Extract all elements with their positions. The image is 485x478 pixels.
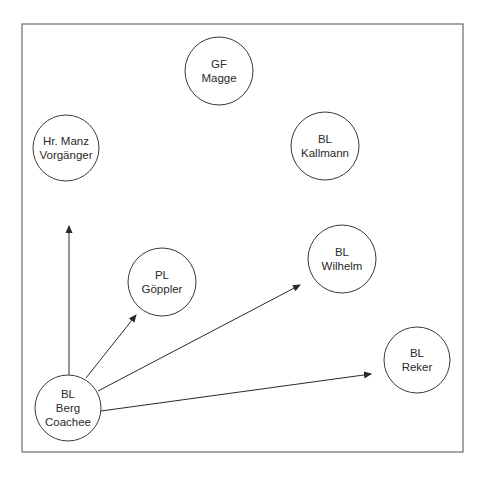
node-circle	[384, 327, 450, 393]
node-bl-kallmann: BLKallmann	[291, 112, 359, 180]
node-label-line: BL	[61, 388, 76, 400]
node-label-line: BL	[318, 133, 333, 145]
node-bl-berg: BLBergCoachee	[35, 375, 101, 441]
node-circle	[308, 225, 376, 293]
node-label-line: PL	[155, 269, 170, 281]
node-label-line: Coachee	[45, 416, 91, 428]
node-bl-wilhelm: BLWilhelm	[308, 225, 376, 293]
node-circle	[185, 37, 253, 105]
node-label-line: Berg	[56, 402, 80, 414]
node-circle	[291, 112, 359, 180]
sociogram-diagram: GFMaggeHr. ManzVorgängerBLKallmannPLGöpp…	[0, 0, 485, 478]
node-gf-magge: GFMagge	[185, 37, 253, 105]
node-bl-reker: BLReker	[384, 327, 450, 393]
node-label-line: Vorgänger	[39, 149, 92, 161]
node-label-line: BL	[410, 347, 425, 359]
node-hr-manz: Hr. ManzVorgänger	[33, 115, 99, 181]
node-label-line: Hr. Manz	[43, 135, 89, 147]
node-label-line: Kallmann	[301, 147, 349, 159]
node-label-line: Göppler	[142, 283, 183, 295]
node-circle	[33, 115, 99, 181]
node-label-line: Magge	[201, 72, 236, 84]
node-label-line: Reker	[402, 361, 433, 373]
node-label-line: BL	[335, 246, 350, 258]
node-pl-goeppler: PLGöppler	[128, 248, 196, 316]
node-label-line: GF	[211, 58, 227, 70]
node-circle	[128, 248, 196, 316]
node-label-line: Wilhelm	[322, 260, 363, 272]
